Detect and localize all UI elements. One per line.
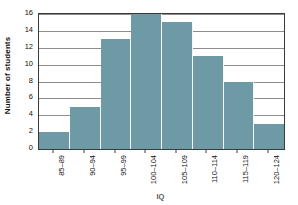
x-tick-label: 110–114 bbox=[210, 155, 220, 191]
x-tick-mark bbox=[237, 149, 238, 153]
y-tick-label: 12 bbox=[25, 43, 33, 51]
y-axis-tick-labels: 0246810121416 bbox=[16, 0, 36, 160]
bar bbox=[101, 39, 132, 149]
histogram-figure: Number of students 0246810121416 85–8990… bbox=[0, 0, 298, 205]
bar bbox=[162, 22, 193, 149]
x-tick-label: 115–119 bbox=[241, 155, 251, 191]
bar bbox=[224, 82, 255, 150]
x-tick-label: 105–109 bbox=[180, 155, 190, 191]
y-tick-label: 8 bbox=[29, 77, 33, 85]
x-tick-label: 120–124 bbox=[272, 155, 282, 191]
x-tick-label: 95–99 bbox=[119, 155, 129, 191]
bar bbox=[70, 107, 101, 149]
y-tick-label: 16 bbox=[25, 9, 33, 17]
x-tick-label: 100–104 bbox=[149, 155, 159, 191]
x-tick-mark bbox=[175, 149, 176, 153]
bar bbox=[254, 124, 284, 149]
x-tick-mark bbox=[53, 149, 54, 153]
x-axis-title: IQ bbox=[38, 192, 283, 201]
bar bbox=[39, 132, 70, 149]
y-tick-label: 14 bbox=[25, 26, 33, 34]
x-tick-mark bbox=[83, 149, 84, 153]
y-tick-label: 6 bbox=[29, 94, 33, 102]
bar-series bbox=[39, 14, 284, 149]
plot-area bbox=[38, 13, 285, 150]
bar bbox=[131, 14, 162, 149]
x-tick-label: 90–94 bbox=[88, 155, 98, 191]
y-axis-title-text: Number of students bbox=[4, 36, 13, 113]
x-tick-mark bbox=[145, 149, 146, 153]
x-axis-tick-labels: 85–8990–9495–99100–104105–109110–114115–… bbox=[38, 155, 283, 191]
y-tick-label: 4 bbox=[29, 111, 33, 119]
y-tick-label: 2 bbox=[29, 127, 33, 135]
bar bbox=[193, 56, 224, 149]
y-tick-label: 0 bbox=[29, 144, 33, 152]
x-tick-mark bbox=[267, 149, 268, 153]
y-tick-label: 10 bbox=[25, 60, 33, 68]
y-axis-title: Number of students bbox=[0, 0, 16, 150]
x-tick-mark bbox=[206, 149, 207, 153]
x-tick-label: 85–89 bbox=[57, 155, 67, 191]
x-axis-ticks bbox=[38, 149, 283, 154]
x-tick-mark bbox=[114, 149, 115, 153]
